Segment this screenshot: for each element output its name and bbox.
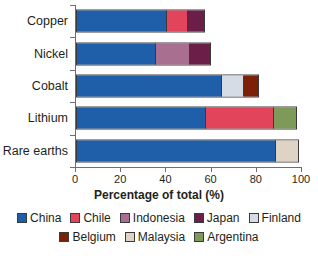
y-axis-tick <box>70 167 75 168</box>
x-axis-line <box>75 167 302 168</box>
legend-swatch-icon <box>59 232 69 242</box>
category-label: Lithium <box>0 111 68 125</box>
category-label: Rare earths <box>0 144 68 158</box>
x-axis-tick-label: 80 <box>250 173 262 185</box>
bar-segment[interactable] <box>188 11 204 32</box>
legend-item[interactable]: Chile <box>70 212 110 224</box>
legend-swatch-icon <box>249 213 259 223</box>
y-axis-tick <box>70 5 75 6</box>
bar-row: Rare earths <box>0 135 318 167</box>
x-axis-tick-label: 40 <box>159 173 171 185</box>
legend-row: ChinaChileIndonesiaJapanFinland <box>0 208 318 227</box>
stacked-bar[interactable] <box>76 42 211 65</box>
bar-segment[interactable] <box>222 75 245 96</box>
bar-segment[interactable] <box>77 140 276 161</box>
bar-segment[interactable] <box>206 108 274 129</box>
legend-label: Argentina <box>207 231 258 243</box>
x-axis-tick <box>301 168 302 172</box>
x-axis-tick-label: 20 <box>114 173 126 185</box>
bar-segment[interactable] <box>77 11 167 32</box>
legend-swatch-icon <box>120 213 130 223</box>
x-axis-tick <box>165 168 166 172</box>
x-axis-tick-label: 0 <box>72 173 78 185</box>
legend-label: Belgium <box>72 231 115 243</box>
legend-item[interactable]: Belgium <box>59 231 115 243</box>
x-axis-tick <box>120 168 121 172</box>
bar-row: Copper <box>0 5 318 37</box>
bar-row: Cobalt <box>0 70 318 102</box>
legend-label: Indonesia <box>133 212 185 224</box>
bar-segment[interactable] <box>156 43 190 64</box>
bar-row: Lithium <box>0 102 318 134</box>
bar-segment[interactable] <box>77 43 156 64</box>
category-label: Nickel <box>0 47 68 61</box>
legend-label: Malaysia <box>138 231 185 243</box>
stacked-bar-chart: CopperNickelCobaltLithiumRare earths 020… <box>0 0 318 260</box>
bar-segment[interactable] <box>77 108 206 129</box>
legend-row: BelgiumMalaysiaArgentina <box>0 227 318 246</box>
x-axis-tick <box>75 168 76 172</box>
legend-item[interactable]: Malaysia <box>125 231 185 243</box>
legend-item[interactable]: Indonesia <box>120 212 185 224</box>
legend-swatch-icon <box>194 213 204 223</box>
stacked-bar[interactable] <box>76 74 259 97</box>
bar-segment[interactable] <box>77 75 222 96</box>
bar-segment[interactable] <box>167 11 187 32</box>
legend-item[interactable]: Finland <box>249 212 301 224</box>
legend-label: Japan <box>207 212 240 224</box>
chart-legend: ChinaChileIndonesiaJapanFinlandBelgiumMa… <box>0 208 318 246</box>
category-label: Copper <box>0 14 68 28</box>
legend-item[interactable]: Argentina <box>194 231 258 243</box>
bar-segment[interactable] <box>244 75 258 96</box>
legend-swatch-icon <box>194 232 204 242</box>
category-label: Cobalt <box>0 79 68 93</box>
legend-swatch-icon <box>125 232 135 242</box>
legend-label: China <box>30 212 61 224</box>
y-axis-tick <box>70 102 75 103</box>
stacked-bar[interactable] <box>76 139 299 162</box>
y-axis-tick <box>70 135 75 136</box>
legend-swatch-icon <box>17 213 27 223</box>
bar-segment[interactable] <box>274 108 297 129</box>
bar-segment[interactable] <box>276 140 299 161</box>
x-axis-tick <box>256 168 257 172</box>
bar-row: Nickel <box>0 37 318 69</box>
legend-item[interactable]: Japan <box>194 212 240 224</box>
legend-label: Finland <box>262 212 301 224</box>
stacked-bar[interactable] <box>76 10 205 33</box>
x-axis-tick-label: 100 <box>292 173 310 185</box>
stacked-bar[interactable] <box>76 107 297 130</box>
x-axis-tick <box>211 168 212 172</box>
x-axis-title: Percentage of total (%) <box>0 188 318 202</box>
legend-item[interactable]: China <box>17 212 61 224</box>
y-axis-tick <box>70 70 75 71</box>
legend-label: Chile <box>83 212 110 224</box>
legend-swatch-icon <box>70 213 80 223</box>
y-axis-tick <box>70 37 75 38</box>
bar-segment[interactable] <box>190 43 210 64</box>
x-axis-tick-label: 60 <box>204 173 216 185</box>
